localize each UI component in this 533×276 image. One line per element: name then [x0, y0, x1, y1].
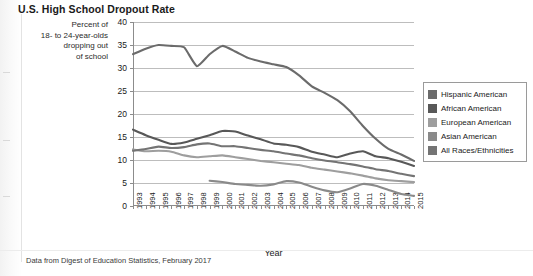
plot-area	[133, 22, 414, 206]
legend-item-label: Asian American	[441, 132, 497, 141]
y-axis-tick-label: 35	[101, 41, 127, 50]
x-axis-tick-label: 2015	[417, 192, 425, 209]
y-axis-caption: Percent of 18- to 24-year-olds dropping …	[18, 20, 108, 62]
legend-swatch-icon	[428, 104, 437, 113]
x-axis-tick-mark	[325, 206, 326, 209]
footer-divider	[0, 250, 533, 251]
legend-item-label: All Races/Ethnicities	[441, 146, 513, 155]
series-lines	[133, 22, 414, 206]
y-axis-caption-line: 18- to 24-year-olds	[18, 31, 108, 42]
legend-item[interactable]: African American	[428, 101, 523, 115]
x-axis-tick-mark	[312, 206, 313, 209]
x-axis-tick-mark	[210, 206, 211, 209]
y-axis-tick-label: 30	[101, 64, 127, 73]
x-axis-tick-mark	[171, 206, 172, 209]
y-axis-tick-label: 25	[101, 87, 127, 96]
y-axis-tick-label: 40	[101, 18, 127, 27]
x-axis-tick-mark	[414, 206, 415, 209]
x-axis-tick-mark	[133, 206, 134, 209]
legend-item[interactable]: European American	[428, 115, 523, 129]
legend-item[interactable]: Asian American	[428, 129, 523, 143]
legend-item-label: African American	[441, 104, 501, 113]
x-axis-tick-mark	[376, 206, 377, 209]
x-axis-tick-mark	[401, 206, 402, 209]
x-axis-tick-mark	[350, 206, 351, 209]
gutter-tick-mark	[3, 196, 10, 197]
x-axis-tick-mark	[146, 206, 147, 209]
legend-swatch-icon	[428, 132, 437, 141]
y-axis-tick-label: 5	[101, 179, 127, 188]
x-axis-tick-mark	[235, 206, 236, 209]
legend-swatch-icon	[428, 146, 437, 155]
chart-page: U.S. High School Dropout Rate Percent of…	[0, 0, 533, 276]
y-axis-caption-line: of school	[18, 52, 108, 63]
x-axis-tick-mark	[197, 206, 198, 209]
x-axis-tick-mark	[388, 206, 389, 209]
legend-swatch-icon	[428, 118, 437, 127]
y-axis-caption-line: Percent of	[18, 20, 108, 31]
y-axis-tick-label: 0	[101, 202, 127, 211]
y-axis-caption-line: dropping out	[18, 41, 108, 52]
x-axis-tick-mark	[248, 206, 249, 209]
x-axis-tick-mark	[286, 206, 287, 209]
source-note: Data from Digest of Education Statistics…	[26, 256, 211, 265]
legend-item-label: European American	[441, 118, 511, 127]
legend-item[interactable]: Hispanic American	[428, 87, 523, 101]
x-axis-tick-mark	[299, 206, 300, 209]
legend-swatch-icon	[428, 90, 437, 99]
x-axis-tick-mark	[337, 206, 338, 209]
x-axis-tick-mark	[222, 206, 223, 209]
series-line	[210, 181, 414, 196]
gutter-tick-mark	[3, 72, 10, 73]
legend-item-label: Hispanic American	[441, 90, 507, 99]
x-axis-tick-mark	[159, 206, 160, 209]
x-axis-tick-mark	[184, 206, 185, 209]
x-axis-tick-mark	[274, 206, 275, 209]
chart-title: U.S. High School Dropout Rate	[18, 3, 175, 15]
y-axis-tick-label: 15	[101, 133, 127, 142]
series-line	[133, 143, 414, 176]
chart-legend: Hispanic AmericanAfrican AmericanEuropea…	[423, 82, 527, 162]
x-axis-tick-mark	[363, 206, 364, 209]
y-axis-tick-label: 10	[101, 156, 127, 165]
gutter-tick-mark	[3, 140, 10, 141]
y-axis-tick-label: 20	[101, 110, 127, 119]
x-axis-tick-mark	[261, 206, 262, 209]
legend-item[interactable]: All Races/Ethnicities	[428, 143, 523, 157]
